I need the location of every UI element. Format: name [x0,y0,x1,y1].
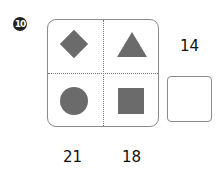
circle-icon [60,87,88,115]
answer-input-box[interactable] [167,76,212,122]
horizontal-divider [48,73,158,74]
shape-grid [47,19,159,127]
triangle-icon [117,32,147,57]
problem-number-badge: 10 [13,17,27,31]
col2-sum-label: 18 [122,148,141,166]
row1-sum-label: 14 [180,37,199,55]
col1-sum-label: 21 [63,148,82,166]
diamond-icon [60,30,88,58]
square-icon [118,88,144,114]
